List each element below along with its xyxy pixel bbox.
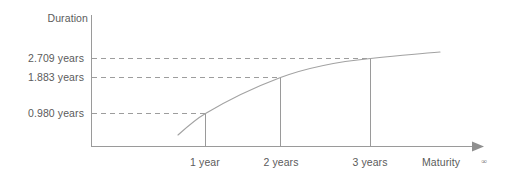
x-axis-arrow-icon [472,142,484,152]
duration-curve-path [178,52,440,135]
chart-canvas: Duration 2.709 years 1.883 years 0.980 y… [0,0,517,181]
y-tick-label-2709: 2.709 years [28,52,84,64]
vertical-drop-lines-group [206,59,371,147]
x-axis-title: Maturity [422,156,461,168]
horizontal-guides-group [92,59,370,114]
x-tick-label-3-years: 3 years [352,156,387,168]
axes-group [91,15,484,152]
x-tick-label-2-years: 2 years [263,156,298,168]
duration-curve-group [178,52,440,135]
y-axis-title: Duration [48,12,89,24]
y-tick-label-1883: 1.883 years [28,71,84,83]
duration-maturity-chart: Duration 2.709 years 1.883 years 0.980 y… [0,0,517,181]
y-tick-label-0980: 0.980 years [28,107,84,119]
x-tick-label-1-year: 1 year [190,156,220,168]
infinity-symbol-icon: ∞ [481,157,487,166]
